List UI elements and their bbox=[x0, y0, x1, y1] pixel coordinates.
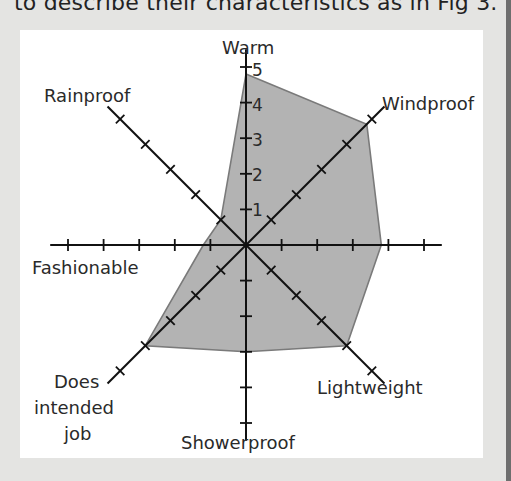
axis-label-lightweight: Lightweight bbox=[317, 377, 423, 398]
axis-label-fashionable: Fashionable bbox=[32, 257, 138, 278]
axis-label-does-intended-job-3: job bbox=[63, 423, 91, 444]
axis-label-windproof: Windproof bbox=[382, 93, 475, 114]
figure-panel: 1 2 3 4 5 Warm Windproof Rainproof Fashi… bbox=[20, 30, 483, 458]
tick-label-5: 5 bbox=[252, 60, 263, 80]
tick-label-3: 3 bbox=[252, 130, 263, 150]
figure-caption-text: to describe their characteristics as in … bbox=[14, 0, 498, 15]
axis-label-does-intended-job-2: intended bbox=[34, 397, 114, 418]
tick-label-4: 4 bbox=[252, 95, 263, 115]
axis-label-showerproof: Showerproof bbox=[181, 432, 295, 453]
axis-label-warm: Warm bbox=[222, 37, 274, 58]
center-point bbox=[244, 243, 249, 248]
page-edge-strip bbox=[506, 0, 511, 481]
tick-label-1: 1 bbox=[252, 200, 263, 220]
axis-label-rainproof: Rainproof bbox=[44, 85, 131, 106]
tick-label-2: 2 bbox=[252, 165, 263, 185]
axis-label-does-intended-job-1: Does bbox=[54, 371, 99, 392]
radar-chart: 1 2 3 4 5 Warm Windproof Rainproof Fashi… bbox=[20, 30, 483, 458]
